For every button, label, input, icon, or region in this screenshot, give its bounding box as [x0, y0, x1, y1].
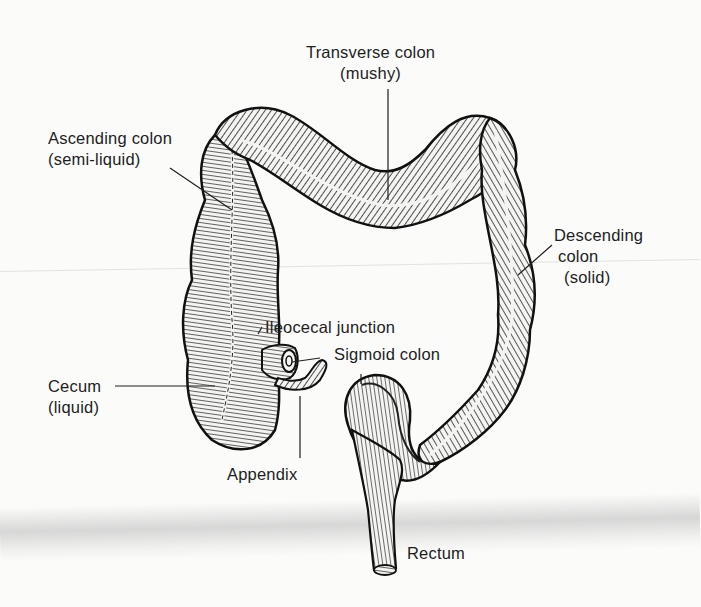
- sigmoid-colon-name: Sigmoid colon: [334, 344, 440, 365]
- descending-colon-name: Descending: [554, 225, 643, 246]
- ascending-colon-shape: [183, 135, 279, 449]
- ascending-colon-state: (semi-liquid): [48, 149, 172, 170]
- cecum-name: Cecum: [48, 376, 101, 397]
- label-descending-colon: Descending colon (solid): [554, 225, 643, 288]
- appendix-name: Appendix: [227, 464, 297, 485]
- label-ileocecal-junction: Ileocecal junction: [265, 317, 395, 338]
- label-rectum: Rectum: [407, 543, 465, 564]
- label-ascending-colon: Ascending colon (semi-liquid): [48, 128, 172, 170]
- transverse-colon-name: Transverse colon: [306, 42, 435, 63]
- rectum-name: Rectum: [407, 543, 465, 564]
- ascending-colon-name: Ascending colon: [48, 128, 172, 149]
- label-appendix: Appendix: [227, 464, 297, 485]
- label-transverse-colon: Transverse colon (mushy): [306, 42, 435, 84]
- cecum-state: (liquid): [48, 397, 101, 418]
- label-cecum: Cecum (liquid): [48, 376, 101, 418]
- descending-colon-state: (solid): [554, 267, 643, 288]
- descending-colon-name2: colon: [554, 246, 643, 267]
- label-sigmoid-colon: Sigmoid colon: [334, 344, 440, 365]
- transverse-colon-state: (mushy): [306, 63, 435, 84]
- ileocecal-junction-name: Ileocecal junction: [265, 317, 395, 338]
